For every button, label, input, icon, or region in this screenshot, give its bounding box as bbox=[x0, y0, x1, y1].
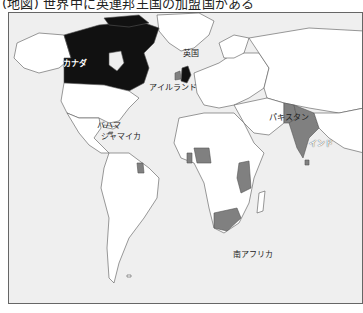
sri-lanka bbox=[305, 160, 309, 165]
label-india: インド bbox=[309, 139, 333, 148]
guyana bbox=[137, 163, 144, 173]
label-pakistan: パキスタン bbox=[269, 113, 309, 122]
greenland bbox=[157, 13, 214, 51]
label-south-africa: 南アフリカ bbox=[233, 250, 273, 259]
falklands bbox=[127, 275, 131, 277]
nigeria bbox=[194, 148, 211, 163]
uk bbox=[181, 66, 191, 83]
map-title: (地図) 世界中に英連邦王国の加盟国がある bbox=[2, 0, 254, 12]
label-uk: 英国 bbox=[183, 49, 199, 58]
ireland bbox=[175, 71, 181, 80]
label-jamaica: ジャマイカ bbox=[101, 132, 141, 141]
label-canada: カナダ bbox=[63, 59, 87, 68]
label-ireland: アイルランド bbox=[149, 83, 197, 92]
label-bahamas: バハマ bbox=[97, 121, 121, 130]
madagascar bbox=[257, 191, 265, 213]
ghana bbox=[187, 153, 192, 163]
world-map: カナダ 英国 アイルランド バハマ ジャマイカ パキスタン インド 南アフリカ bbox=[8, 12, 363, 304]
south-america bbox=[101, 153, 159, 283]
